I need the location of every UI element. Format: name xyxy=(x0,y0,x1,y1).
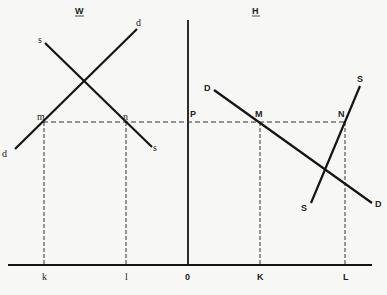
right-supply-label-bottom: S xyxy=(301,203,307,213)
panel-title-h: H xyxy=(252,6,259,16)
left-demand-curve xyxy=(15,29,137,149)
right-supply-label-top: S xyxy=(357,74,363,84)
origin-label: 0 xyxy=(185,272,190,282)
point-label-n: n xyxy=(123,111,128,122)
right-supply-curve xyxy=(311,86,360,203)
right-demand-label-top: D xyxy=(204,83,211,93)
trade-diagram: W H s s d d D D S S m n P M N k l 0 K L xyxy=(0,0,387,295)
left-demand-label-top: d xyxy=(136,17,141,28)
point-label-M: M xyxy=(255,109,263,119)
tick-label-L: L xyxy=(343,272,349,282)
tick-label-k: k xyxy=(42,271,47,282)
right-demand-label-bottom: D xyxy=(375,199,382,209)
right-demand-curve xyxy=(214,90,372,203)
left-supply-curve xyxy=(45,43,152,147)
left-demand-label-bottom: d xyxy=(2,148,7,159)
tick-label-K: K xyxy=(257,272,264,282)
point-label-m: m xyxy=(37,111,45,122)
tick-label-l: l xyxy=(125,271,128,282)
left-supply-label-top: s xyxy=(38,34,42,45)
point-label-N: N xyxy=(338,109,345,119)
left-supply-label-bottom: s xyxy=(153,142,157,153)
price-label-p: P xyxy=(190,109,196,119)
panel-title-w: W xyxy=(75,6,84,16)
